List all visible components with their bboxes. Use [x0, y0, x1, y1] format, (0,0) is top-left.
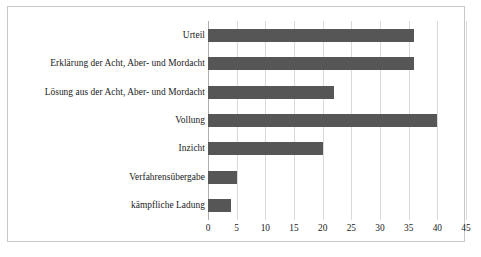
- bar-track: [208, 21, 466, 49]
- category-label: Verfahrensübergabe: [0, 172, 205, 183]
- bar-track: [208, 135, 466, 163]
- bar[interactable]: [208, 199, 231, 212]
- x-tick-label: 25: [347, 223, 356, 233]
- bar-rows: UrteilErklärung der Acht, Aber- und Mord…: [8, 21, 473, 220]
- bar-track: [208, 106, 466, 134]
- category-label: Erklärung der Acht, Aber- und Mordacht: [0, 58, 205, 69]
- bar-track: [208, 192, 466, 220]
- x-tick-label: 15: [289, 223, 298, 233]
- chart-frame: UrteilErklärung der Acht, Aber- und Mord…: [7, 6, 465, 242]
- bar[interactable]: [208, 86, 334, 99]
- bar-row: kämpfliche Ladung: [8, 192, 473, 220]
- bar-track: [208, 49, 466, 77]
- bar[interactable]: [208, 142, 323, 155]
- bar[interactable]: [208, 171, 237, 184]
- bar-track: [208, 78, 466, 106]
- category-label: Lösung aus der Acht, Aber- und Mordacht: [0, 87, 205, 98]
- x-tick-label: 20: [318, 223, 327, 233]
- x-tick-label: 30: [375, 223, 384, 233]
- x-axis-tick-labels: 051015202530354045: [208, 223, 466, 239]
- bar[interactable]: [208, 29, 414, 42]
- x-tick-label: 0: [206, 223, 211, 233]
- x-tick-label: 5: [234, 223, 239, 233]
- x-tick-label: 40: [433, 223, 442, 233]
- x-tick-label: 35: [404, 223, 413, 233]
- category-label: Urteil: [0, 30, 205, 41]
- bar-track: [208, 163, 466, 191]
- bar-row: Verfahrensübergabe: [8, 163, 473, 191]
- x-tick-label: 45: [461, 223, 470, 233]
- bar[interactable]: [208, 114, 437, 127]
- bar-row: Erklärung der Acht, Aber- und Mordacht: [8, 49, 473, 77]
- bar-row: Urteil: [8, 21, 473, 49]
- x-tick-label: 10: [261, 223, 270, 233]
- bar[interactable]: [208, 57, 414, 70]
- category-label: Inzicht: [0, 143, 205, 154]
- category-label: Vollung: [0, 115, 205, 126]
- bar-row: Vollung: [8, 106, 473, 134]
- category-label: kämpfliche Ladung: [0, 200, 205, 211]
- bar-row: Lösung aus der Acht, Aber- und Mordacht: [8, 78, 473, 106]
- bar-row: Inzicht: [8, 135, 473, 163]
